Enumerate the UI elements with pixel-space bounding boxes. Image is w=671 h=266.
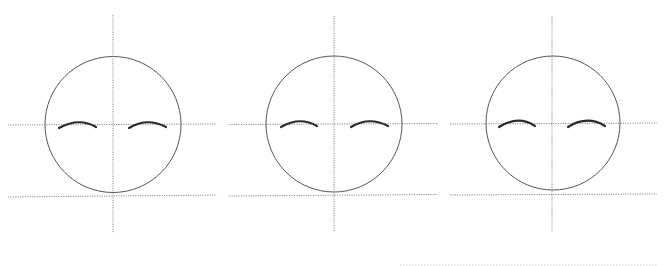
face-sketch-3 <box>450 16 657 231</box>
face-sketch-1 <box>8 15 217 233</box>
face-sketch-2 <box>229 16 438 231</box>
left-eyebrow <box>59 122 96 128</box>
right-eyebrow <box>129 122 166 128</box>
eye-level-guide <box>450 123 657 124</box>
right-eyebrow <box>351 121 388 127</box>
left-eyebrow <box>499 121 535 127</box>
right-eyebrow <box>568 121 605 127</box>
faces-layer <box>8 15 657 233</box>
chin-guide <box>450 194 657 195</box>
face-construction-diagram <box>0 0 671 266</box>
